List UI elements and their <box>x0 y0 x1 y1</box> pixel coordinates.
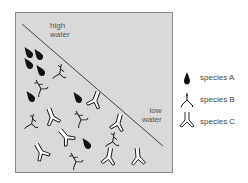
legend-teardrop-icon <box>184 72 190 85</box>
legend-label-species-a: species A <box>200 73 234 82</box>
low-water-label-line1: low <box>142 106 162 115</box>
high-water-label: high water <box>50 21 70 39</box>
legend-label-species-c: species C <box>200 117 235 126</box>
high-water-label-line1: high <box>50 21 70 30</box>
legend-branch-icon <box>181 93 193 107</box>
high-water-label-line2: water <box>50 30 70 39</box>
zonation-diagram <box>0 0 248 183</box>
legend-label-species-b: species B <box>200 95 235 104</box>
low-water-label-line2: water <box>142 115 162 124</box>
low-water-label: low water <box>142 106 162 124</box>
legend-y-outline-icon <box>180 112 194 127</box>
